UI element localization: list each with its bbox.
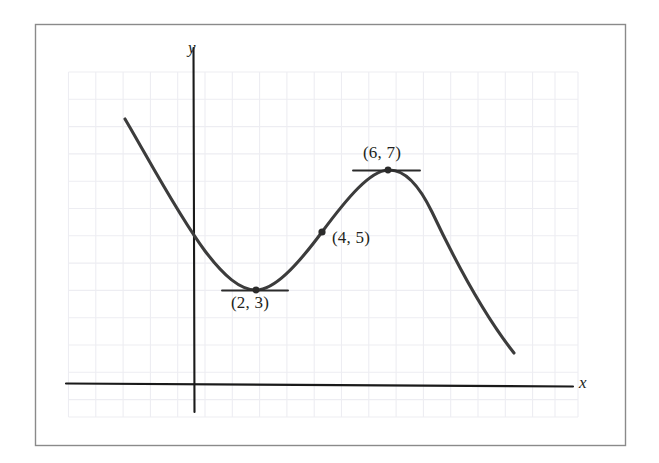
point-marker-maximum: [385, 167, 392, 174]
y-axis: [194, 48, 195, 412]
label-inflection-point: (4, 5): [332, 228, 370, 248]
x-axis-label: x: [579, 373, 587, 393]
y-axis-label: y: [188, 38, 196, 58]
figure-container: y x (2, 3) (4, 5) (6, 7): [0, 0, 659, 463]
label-local-maximum: (6, 7): [363, 143, 401, 163]
graph-canvas: [0, 0, 659, 463]
label-local-minimum: (2, 3): [231, 293, 269, 313]
figure-border: [36, 25, 626, 446]
point-marker-inflection: [318, 228, 325, 235]
